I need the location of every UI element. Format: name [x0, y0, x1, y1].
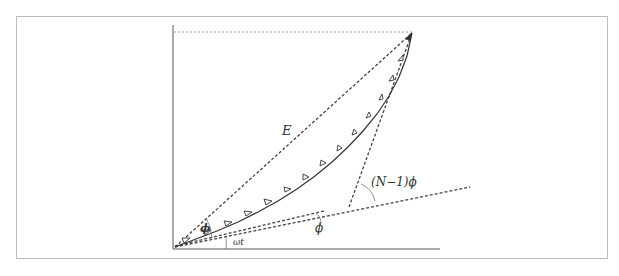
label-omega-t: ωt: [233, 237, 244, 247]
label-phase-total: (N−1)ϕ: [371, 175, 417, 189]
first-phasor-direction: [175, 187, 470, 247]
phasor-diagram: E ϕ ωt (N−1)ϕ ϕ: [0, 0, 619, 276]
label-phase-step: ϕ: [315, 221, 323, 235]
label-resultant: E: [281, 123, 292, 138]
resultant-line: [175, 33, 412, 247]
label-phase-small: ϕ: [200, 222, 211, 235]
